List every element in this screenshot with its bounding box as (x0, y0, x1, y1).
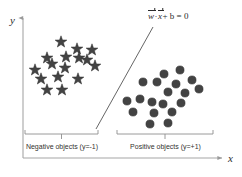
formula-vector-x: x (158, 12, 162, 21)
negative-group-bracket (25, 130, 98, 139)
dot-marker (136, 95, 144, 103)
star-marker (72, 73, 84, 84)
dot-marker (123, 97, 131, 105)
dot-marker (195, 85, 203, 93)
dot-marker (172, 80, 180, 88)
formula-remainder: + b = 0 (162, 11, 189, 21)
star-marker (29, 64, 41, 75)
dot-marker (129, 108, 137, 116)
y-axis-label: y (10, 15, 15, 26)
diagram-canvas (0, 0, 242, 177)
negative-points-group (29, 36, 101, 95)
positive-points-group (123, 66, 203, 128)
dot-marker (164, 88, 172, 96)
dot-marker (150, 109, 158, 117)
dot-marker (188, 76, 196, 84)
star-marker (89, 60, 101, 71)
dot-marker (146, 120, 154, 128)
dot-marker (177, 99, 185, 107)
dot-marker (176, 66, 184, 74)
formula-vector-w: w (148, 12, 154, 21)
positive-group-label: Positive objects (y=+1) (117, 143, 214, 150)
positive-group-bracket (117, 130, 213, 139)
star-marker (55, 36, 67, 47)
hyperplane-formula: w·x+ b = 0 (148, 12, 189, 21)
x-axis-label: x (228, 153, 233, 164)
star-marker (41, 84, 53, 95)
dot-marker (148, 98, 156, 106)
star-marker (56, 84, 68, 95)
negative-group-label: Negative objects (y=-1) (25, 143, 99, 150)
dot-marker (164, 119, 172, 127)
data-marker-layer (29, 36, 203, 128)
star-marker (60, 51, 72, 62)
star-marker (86, 44, 98, 55)
dot-marker (181, 89, 189, 97)
star-marker (59, 62, 71, 73)
star-marker (73, 52, 85, 63)
dot-marker (160, 70, 168, 78)
dot-marker (153, 78, 161, 86)
svm-diagram-figure: y x w·x+ b = 0 Negative objects (y=-1) P… (0, 0, 242, 177)
star-marker (71, 43, 83, 54)
dot-marker (139, 78, 147, 86)
dot-marker (159, 100, 167, 108)
star-marker (35, 73, 47, 84)
dot-marker (168, 108, 176, 116)
